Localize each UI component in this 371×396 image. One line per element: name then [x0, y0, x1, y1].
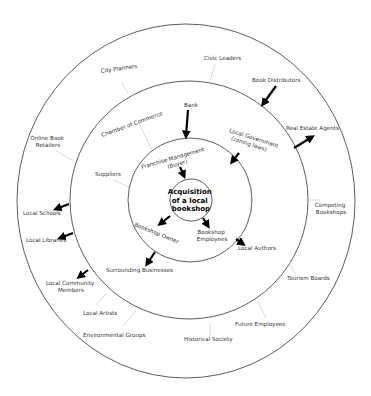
label-bookshop-owner: Bookshop Owner: [133, 221, 180, 246]
label-surrounding-businesses: Surrounding Businesses: [106, 267, 173, 274]
label-bank: Bank: [184, 102, 199, 108]
center-label-line-3: bookshop: [172, 205, 210, 213]
arrow-local-schools: [56, 204, 69, 209]
leader-suppliers: [114, 180, 129, 187]
arrow-local-authors: [236, 239, 243, 244]
arrow-bookshop-employees: [203, 218, 208, 226]
arrow-bank: [186, 110, 188, 136]
label-bookshop-employees: Bookshop Employees: [197, 229, 228, 243]
label-franchise-management: Franchise Management (Buyer): [141, 146, 209, 178]
label-tourism-boards: Tourism Boards: [286, 275, 330, 281]
leader-future-employees: [258, 302, 266, 318]
leader-city-planners: [121, 82, 128, 93]
label-chamber-of-commerce: Chamber of Commerce: [100, 110, 164, 138]
arrow-real-estate-agents: [294, 137, 312, 148]
leader-civic-leaders: [210, 64, 215, 81]
stakeholder-diagram: Acquisition of a local bookshop Civic Le…: [0, 0, 371, 396]
label-book-distributors: Book Distributors: [252, 77, 301, 83]
label-civic-leaders: Civic Leaders: [204, 55, 241, 61]
label-suppliers: Suppliers: [95, 171, 121, 178]
arrow-franchise-management: [180, 167, 184, 176]
label-local-authors: Local Authors: [238, 245, 276, 251]
center-label-line-1: Acquisition: [168, 188, 212, 196]
label-city-planners: City Planners: [100, 63, 138, 75]
label-online-book-retailers: Online Book Retailers: [30, 135, 66, 148]
label-local-schools: Local Schools: [23, 210, 61, 216]
label-competing-bookshops: Competing Bookshops: [315, 202, 347, 216]
label-local-artists: Local Artists: [83, 310, 117, 316]
arrow-surrounding-businesses: [147, 252, 155, 264]
center-label-line-2: of a local: [172, 197, 208, 205]
leader-tourism-boards: [289, 262, 296, 276]
label-environmental-groups: Environmental Groups: [83, 332, 146, 339]
label-historical-society: Historical Society: [184, 336, 233, 343]
label-local-libraries: Local Libraries: [26, 237, 67, 243]
arrow-book-distributors: [263, 86, 276, 104]
label-future-employees: Future Employees: [235, 321, 285, 328]
leader-environmental-groups: [123, 311, 136, 326]
arrow-local-community-members: [79, 270, 88, 277]
label-local-government: Local Government (zoning laws): [226, 127, 281, 157]
center-label: Acquisition of a local bookshop: [168, 188, 215, 213]
arrow-bookshop-owner: [160, 216, 170, 224]
leader-chamber-of-commerce: [139, 123, 152, 150]
label-local-community-members: Local Community Members: [46, 280, 96, 293]
leader-local-artists: [96, 293, 107, 305]
leader-online-book-retailers: [55, 150, 73, 161]
label-real-estate-agents: Real Estate Agents: [286, 125, 339, 132]
